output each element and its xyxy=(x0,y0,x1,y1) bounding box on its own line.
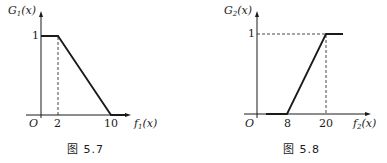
figure-5-8: G2(x) 1 O 8 20 f2(x) 图 5.8 xyxy=(190,0,387,163)
x-axis-label: f2(x) xyxy=(353,118,376,131)
x-tick-2: 2 xyxy=(54,118,61,129)
y-tick-1: 1 xyxy=(248,28,255,39)
y-axis-label: G2(x) xyxy=(224,5,252,18)
x-tick-8: 8 xyxy=(284,118,291,129)
y-tick-1: 1 xyxy=(32,30,39,41)
y-axis-label: G1(x) xyxy=(8,5,36,18)
origin-label: O xyxy=(29,118,38,129)
x-tick-20: 20 xyxy=(319,118,333,129)
x-axis-label: f1(x) xyxy=(134,118,157,131)
figure-caption: 图 5.8 xyxy=(283,140,320,156)
x-axis-arrow-icon xyxy=(365,112,371,116)
g2-series-line xyxy=(266,34,343,114)
chart-g1-plot xyxy=(0,0,190,163)
figure-5-7: G1(x) 1 O 2 10 f1(x) 图 5.7 xyxy=(0,0,190,163)
figure-caption: 图 5.7 xyxy=(67,140,104,156)
g1-series-line xyxy=(41,36,127,115)
y-axis-arrow-icon xyxy=(255,11,259,17)
x-tick-10: 10 xyxy=(104,118,118,129)
y-axis-arrow-icon xyxy=(39,11,43,17)
origin-label: O xyxy=(245,118,254,129)
chart-g2-plot xyxy=(190,0,387,163)
